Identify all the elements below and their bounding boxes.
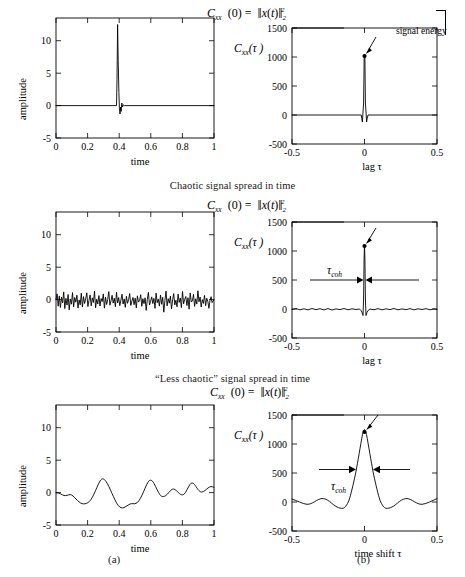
x-tick-5: 1	[212, 141, 217, 152]
signal-curve	[56, 25, 214, 115]
caption-chaotic: Chaotic signal spread in time	[0, 180, 465, 191]
panel-less-chaotic-signal: amplitude 0 0.2 0.4 0.6 0.8 1	[0, 391, 232, 566]
x-axis-ticks	[56, 18, 214, 138]
y-axis-ticks	[56, 428, 214, 525]
x-tick-2: 0.4	[113, 528, 126, 539]
x-tick-5: 1	[212, 528, 217, 539]
coherence-time-arrow	[310, 277, 419, 284]
x-axis-ticks	[56, 212, 214, 332]
y-tick-1: 0	[282, 497, 287, 508]
panel-impulsive-signal: amplitude 0 0.2 0.4 0.6 0.8	[0, 4, 232, 179]
y-tick-2: 500	[272, 468, 287, 479]
x-tick-4: 0.8	[176, 528, 189, 539]
y-axis-ticks	[56, 235, 214, 332]
y-axis-label: amplitude	[17, 78, 28, 120]
autocorrelation-curve	[292, 54, 437, 122]
y-tick-2: 5	[46, 262, 51, 273]
y-tick-3: 10	[41, 422, 51, 433]
coherence-time-arrow	[319, 466, 410, 473]
annotation-arrow-head	[367, 238, 372, 244]
subfigure-label-b: (b)	[357, 553, 370, 565]
peak-marker	[362, 54, 366, 58]
x-tick-2: 0.5	[431, 534, 444, 545]
y-tick-1: 0	[46, 487, 51, 498]
y-tick-0: -5	[43, 520, 51, 531]
formula-signal-energy: Cxx (0) = ‖x(t)‖22	[207, 5, 285, 22]
x-tick-1: 0	[362, 147, 367, 158]
x-tick-0: 0	[54, 528, 59, 539]
x-tick-4: 0.8	[176, 141, 189, 152]
x-axis-label: time	[131, 350, 150, 361]
y-axis-label: Cxx(τ )	[234, 236, 264, 251]
x-tick-1: 0	[362, 534, 367, 545]
x-tick-5: 1	[212, 335, 217, 346]
y-tick-2: 500	[272, 275, 287, 286]
y-tick-4: 1500	[267, 217, 287, 228]
y-tick-3: 1000	[267, 439, 287, 450]
signal-curve	[56, 479, 214, 508]
y-tick-0: -5	[43, 133, 51, 144]
y-tick-0: -500	[269, 139, 287, 150]
y-tick-0: -500	[269, 526, 287, 537]
y-axis-ticks	[292, 28, 437, 144]
panel-chaotic-signal: amplitude 0 0.2 0.4 0.6 0.8 1	[0, 198, 232, 373]
x-tick-2: 0.5	[431, 147, 444, 158]
y-tick-0: -5	[43, 327, 51, 338]
caption-less-chaotic: “Less chaotic” signal spread in time	[0, 373, 465, 384]
x-axis-label: lag τ	[362, 355, 382, 366]
panel-chaotic-autocorrelation: Cxx(τ ) -0.5 0 0.5	[232, 198, 465, 373]
x-tick-3: 0.6	[145, 528, 158, 539]
y-axis-label: Cxx(τ )	[234, 42, 264, 57]
signal-curve	[56, 291, 214, 312]
x-tick-0: 0	[54, 141, 59, 152]
x-tick-3: 0.6	[145, 141, 158, 152]
peak-marker	[362, 430, 366, 434]
y-tick-2: 500	[272, 81, 287, 92]
x-tick-1: 0.2	[81, 335, 94, 346]
x-axis-label: time	[131, 156, 150, 167]
x-axis-label: time	[131, 543, 150, 554]
y-tick-3: 10	[41, 35, 51, 46]
autocorrelation-curve	[292, 430, 437, 509]
x-tick-2: 0.4	[113, 141, 126, 152]
y-tick-4: 1500	[267, 23, 287, 34]
y-tick-4: 1500	[267, 410, 287, 421]
subfigure-label-a: (a)	[108, 553, 120, 565]
y-tick-1: 0	[46, 294, 51, 305]
x-tick-1: 0.2	[81, 528, 94, 539]
y-tick-1: 0	[282, 110, 287, 121]
formula-signal-energy: Cxx (0) = ‖x(t)‖22	[207, 197, 285, 214]
coherence-time-label: τcoh	[327, 264, 342, 279]
y-axis-label: amplitude	[17, 465, 28, 507]
y-tick-2: 5	[46, 68, 51, 79]
annotation-arrow-head	[367, 48, 372, 54]
x-tick-2: 0.5	[431, 341, 444, 352]
panel-impulsive-autocorrelation: Cxx(τ ) -0.5 0 0.5	[232, 4, 465, 179]
formula-signal-energy: Cxx (0) = ‖x(t)‖22	[210, 384, 288, 401]
x-tick-1: 0.2	[81, 141, 94, 152]
x-tick-3: 0.6	[145, 335, 158, 346]
y-tick-1: 0	[282, 304, 287, 315]
annotation-arrow-head	[367, 424, 373, 430]
y-tick-3: 10	[41, 229, 51, 240]
y-axis-ticks	[56, 41, 214, 138]
y-axis-label: amplitude	[17, 272, 28, 314]
y-tick-3: 1000	[267, 246, 287, 257]
y-tick-3: 1000	[267, 52, 287, 63]
panel-less-chaotic-autocorrelation: Cxx(τ ) -0.5 0 0.5	[232, 391, 465, 566]
coherence-time-label: τcoh	[331, 480, 346, 495]
y-tick-1: 0	[46, 100, 51, 111]
y-axis-label: Cxx(τ )	[234, 429, 264, 444]
x-axis-label: lag τ	[362, 161, 382, 172]
x-axis-ticks	[56, 405, 214, 525]
figure-root: amplitude 0 0.2 0.4 0.6 0.8	[0, 0, 465, 577]
y-tick-2: 5	[46, 455, 51, 466]
x-tick-2: 0.4	[113, 335, 126, 346]
peak-marker	[362, 244, 366, 248]
annotation-bracket	[436, 10, 446, 35]
x-tick-1: 0	[362, 341, 367, 352]
x-tick-0: 0	[54, 335, 59, 346]
x-axis-ticks	[292, 28, 437, 144]
x-tick-4: 0.8	[176, 335, 189, 346]
y-tick-0: -500	[269, 333, 287, 344]
